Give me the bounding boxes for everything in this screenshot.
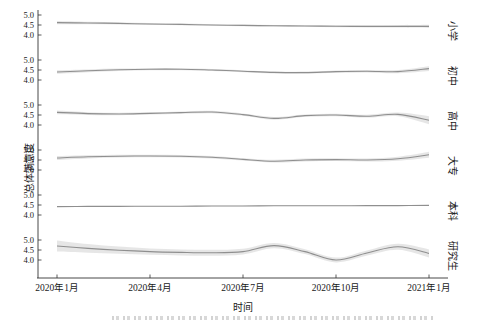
confidence-band [57,111,429,125]
faceted-trend-chart: 总体满意度 5.04.54.0小学5.04.54.0初中5.04.54.0高中5… [0,0,480,322]
facet-strip-label: 研究生 [447,241,459,271]
cropped-caption-remnant [112,316,434,320]
facet-strip-label: 小学 [447,21,459,41]
y-tick-label: 4.5 [23,20,34,30]
y-tick-label: 4.0 [23,30,34,40]
y-tick-label: 4.5 [23,65,34,75]
y-tick-label: 4.0 [23,120,34,130]
confidence-band [57,21,429,28]
y-tick-label: 5.0 [23,10,34,20]
x-tick-label: 2020年4月 [128,282,172,293]
plot-canvas: 5.04.54.0小学5.04.54.0初中5.04.54.0高中5.04.54… [0,0,480,322]
y-tick-label: 4.5 [23,155,34,165]
facet-strip-label: 本科 [447,201,459,221]
y-tick-label: 4.5 [23,200,34,210]
confidence-band [57,152,429,163]
y-tick-label: 4.0 [23,210,34,220]
x-tick-label: 2020年10月 [312,282,361,293]
trend-line [57,205,429,206]
facet-strip-label: 高中 [447,111,459,131]
y-tick-label: 4.0 [23,165,34,175]
y-tick-label: 4.0 [23,75,34,85]
x-axis-title: 时间 [38,299,448,314]
y-tick-label: 5.0 [23,190,34,200]
x-tick-label: 2020年1月 [35,282,79,293]
x-tick-label: 2020年7月 [221,282,265,293]
y-tick-label: 5.0 [23,145,34,155]
facet-strip-label: 初中 [447,66,459,86]
y-tick-label: 4.0 [23,255,34,265]
x-tick-label: 2021年1月 [407,282,451,293]
facet-strip-label: 大专 [447,156,459,176]
y-tick-label: 4.5 [23,110,34,120]
y-tick-label: 5.0 [23,235,34,245]
y-tick-label: 5.0 [23,55,34,65]
y-tick-label: 5.0 [23,100,34,110]
y-tick-label: 4.5 [23,245,34,255]
